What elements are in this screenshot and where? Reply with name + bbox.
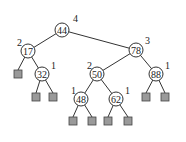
- node-key: 62: [111, 94, 121, 105]
- tree-node-44: 44: [55, 23, 69, 37]
- tree-edge: [62, 30, 136, 50]
- null-leaf: [161, 93, 169, 101]
- null-leaf: [142, 93, 150, 101]
- tree-node-78: 78: [129, 43, 143, 57]
- node-key: 78: [131, 45, 141, 56]
- node-key: 32: [37, 69, 47, 80]
- tree-node-62: 62: [109, 92, 123, 106]
- node-key: 48: [76, 94, 86, 105]
- node-key: 88: [151, 69, 161, 80]
- tree-svg: 444172783321502881481621: [0, 0, 186, 142]
- null-leaf: [124, 117, 132, 125]
- node-key: 44: [57, 25, 67, 36]
- node-height-label: 1: [51, 60, 56, 71]
- null-leaf: [88, 117, 96, 125]
- node-height-label: 1: [71, 85, 76, 96]
- tree-node-50: 50: [90, 67, 104, 81]
- node-key: 17: [23, 46, 33, 57]
- node-height-label: 2: [87, 60, 92, 71]
- node-height-label: 3: [145, 35, 150, 46]
- node-height-label: 1: [165, 60, 170, 71]
- node-height-label: 4: [73, 13, 78, 24]
- node-height-label: 1: [125, 85, 130, 96]
- tree-node-48: 48: [74, 92, 88, 106]
- tree-node-17: 17: [21, 44, 35, 58]
- null-leaf: [32, 93, 40, 101]
- tree-node-88: 88: [149, 67, 163, 81]
- null-leaf: [49, 93, 57, 101]
- tree-node-32: 32: [35, 67, 49, 81]
- node-key: 50: [92, 69, 102, 80]
- null-leaf: [69, 117, 77, 125]
- avl-tree-diagram: 444172783321502881481621: [0, 0, 186, 142]
- node-height-label: 2: [17, 37, 22, 48]
- null-leaf: [104, 117, 112, 125]
- null-leaf: [14, 70, 22, 78]
